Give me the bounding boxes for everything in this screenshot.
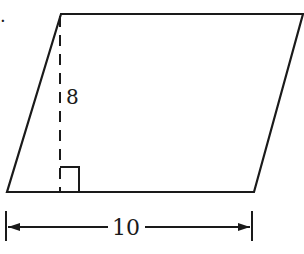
problem-marker: . <box>0 5 6 26</box>
base-label: 10 <box>112 215 140 240</box>
height-label: 8 <box>66 85 79 109</box>
arrowhead-left-icon <box>8 223 20 231</box>
parallelogram-shape <box>7 14 303 192</box>
arrowhead-right-icon <box>238 223 250 231</box>
parallelogram-diagram: . 8 10 <box>0 0 304 254</box>
right-angle-marker <box>60 167 79 192</box>
